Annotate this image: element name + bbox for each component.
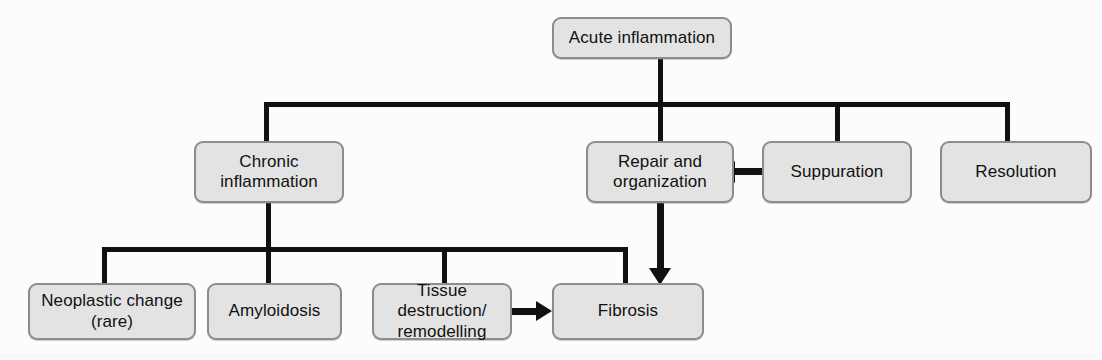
node-resolution[interactable]: Resolution bbox=[940, 141, 1092, 203]
connector-tissue-to-fibrosis bbox=[508, 308, 538, 315]
connector-bus-to-fibrosis bbox=[623, 247, 628, 285]
node-label: Suppuration bbox=[785, 162, 890, 182]
node-chronic-inflammation[interactable]: Chronic inflammation bbox=[194, 141, 344, 203]
connector-lower-bus bbox=[102, 247, 628, 252]
node-label: Acute inflammation bbox=[563, 28, 721, 48]
node-neoplastic-change[interactable]: Neoplastic change (rare) bbox=[28, 283, 196, 340]
connector-bus-to-resolution bbox=[1005, 102, 1010, 143]
node-label-line2: (rare) bbox=[35, 312, 189, 332]
node-amyloidosis[interactable]: Amyloidosis bbox=[207, 283, 342, 340]
connector-bus-to-neoplastic bbox=[102, 247, 107, 285]
node-label-line2: remodelling bbox=[374, 322, 510, 342]
connector-bus-to-tissue bbox=[442, 247, 447, 285]
connector-repair-to-fibrosis bbox=[657, 200, 664, 272]
node-label-line2: inflammation bbox=[214, 172, 324, 192]
node-label-wrap: Repair and organization bbox=[607, 152, 713, 192]
node-tissue-destruction[interactable]: Tissue destruction/ remodelling bbox=[372, 283, 512, 340]
flowchart-canvas: Acute inflammation Chronic inflammation … bbox=[0, 0, 1102, 360]
node-label: Fibrosis bbox=[592, 301, 664, 321]
connector-bus-to-chronic bbox=[264, 102, 269, 143]
node-label-wrap: Neoplastic change (rare) bbox=[35, 291, 189, 331]
connector-acute-stem bbox=[658, 57, 663, 107]
connector-bus-to-amyloidosis bbox=[266, 247, 271, 285]
node-repair-and-organization[interactable]: Repair and organization bbox=[586, 141, 734, 203]
connector-chronic-stem bbox=[266, 202, 271, 250]
node-label-wrap: Tissue destruction/ remodelling bbox=[374, 281, 510, 341]
node-fibrosis[interactable]: Fibrosis bbox=[552, 283, 704, 340]
node-suppuration[interactable]: Suppuration bbox=[762, 141, 912, 203]
node-label-line1: Repair and bbox=[607, 152, 713, 172]
node-label-line2: organization bbox=[607, 172, 713, 192]
node-label-line1: Tissue destruction/ bbox=[374, 281, 510, 321]
node-label: Resolution bbox=[969, 162, 1062, 182]
node-label-line1: Chronic bbox=[214, 152, 324, 172]
scan-artifact-strip bbox=[0, 350, 1102, 360]
connector-suppuration-to-repair bbox=[735, 168, 765, 175]
node-label-wrap: Chronic inflammation bbox=[214, 152, 324, 192]
node-acute-inflammation[interactable]: Acute inflammation bbox=[552, 17, 732, 59]
connector-top-bus bbox=[264, 102, 1010, 107]
connector-bus-to-suppuration bbox=[835, 102, 840, 143]
node-label: Amyloidosis bbox=[223, 301, 327, 321]
node-label-line1: Neoplastic change bbox=[35, 291, 189, 311]
arrowhead-tissue-to-fibrosis bbox=[536, 301, 552, 321]
connector-bus-to-repair bbox=[658, 102, 663, 143]
